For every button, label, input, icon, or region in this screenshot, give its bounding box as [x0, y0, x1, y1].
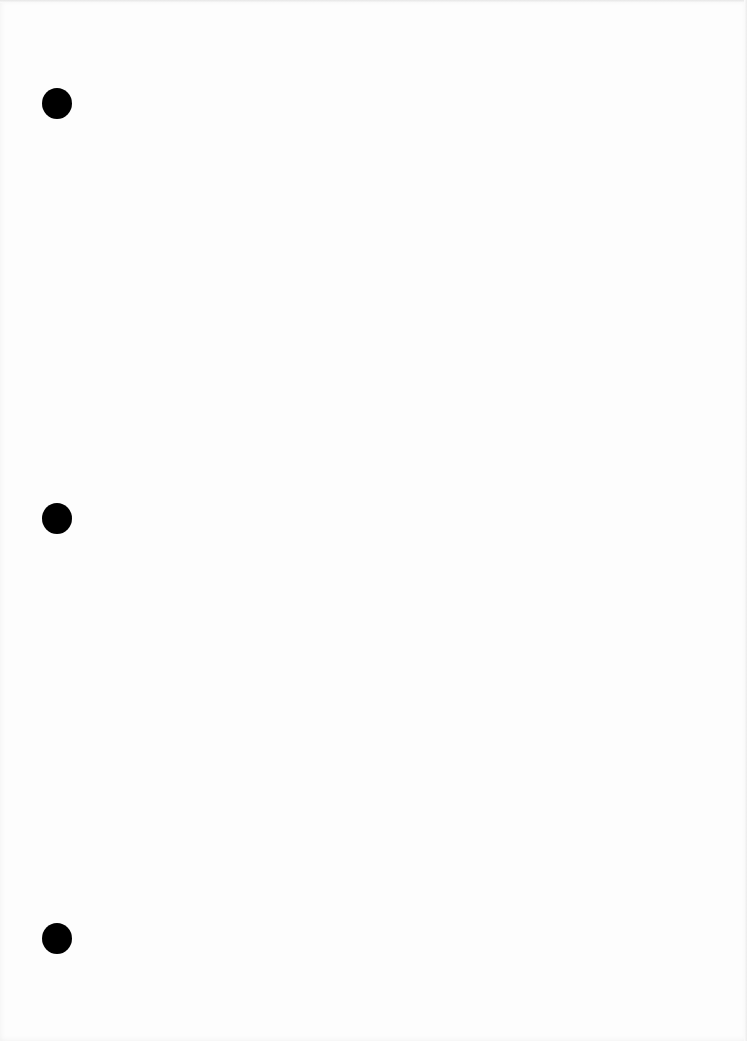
- scanned-page: [0, 0, 747, 1041]
- page-top-edge: [0, 0, 747, 3]
- punch-hole-top: [42, 88, 72, 119]
- punch-hole-bottom: [42, 923, 72, 954]
- punch-hole-middle: [42, 503, 72, 534]
